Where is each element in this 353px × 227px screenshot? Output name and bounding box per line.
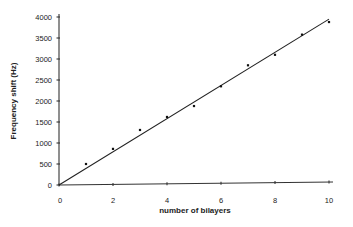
x-tick-label: 6: [219, 196, 223, 205]
y-tick-label: 2500: [35, 76, 52, 85]
y-tick-label: 1500: [35, 118, 52, 127]
data-point: [247, 64, 249, 66]
fit-line-segment: [59, 19, 329, 185]
data-point: [193, 105, 195, 107]
y-tick-label: 0: [48, 181, 52, 190]
y-tick-label: 3500: [35, 34, 52, 43]
x-axis-line: [59, 182, 333, 185]
y-axis-label: Frequency shift (Hz): [9, 62, 18, 139]
data-point: [112, 148, 114, 150]
data-point: [166, 116, 168, 118]
x-tick-label: 10: [325, 196, 333, 205]
x-tick-label: 2: [111, 196, 115, 205]
data-point: [139, 129, 141, 131]
data-point: [85, 163, 87, 165]
data-points: [85, 21, 330, 165]
y-tick-label: 1000: [35, 139, 52, 148]
x-axis-label: number of bilayers: [159, 206, 231, 215]
y-tick-label: 3000: [35, 55, 52, 64]
y-tick-label: 4000: [35, 13, 52, 22]
x-tick-label: 4: [165, 196, 169, 205]
data-point: [301, 34, 303, 36]
fit-line: [59, 19, 329, 185]
chart: 05001000150020002500300035004000 0246810…: [0, 0, 353, 227]
data-point: [220, 85, 222, 87]
x-tick-label: 0: [58, 196, 62, 205]
y-axis-ticks: 05001000150020002500300035004000: [35, 13, 60, 190]
y-tick-label: 2000: [35, 97, 52, 106]
x-tick-label: 8: [273, 196, 277, 205]
y-tick-label: 500: [39, 160, 52, 169]
data-point: [274, 54, 276, 56]
data-point: [328, 21, 330, 23]
